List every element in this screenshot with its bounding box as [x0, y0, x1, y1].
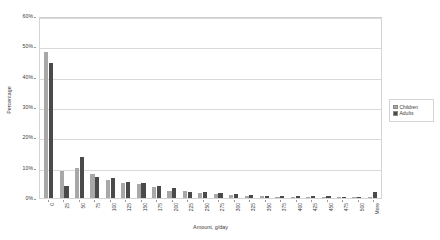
legend-swatch-icon	[393, 105, 398, 110]
bar-children	[167, 191, 171, 198]
x-axis-tick-mark	[203, 200, 204, 202]
bar-adults	[311, 196, 315, 198]
y-axis-tick-label: 50%	[11, 45, 33, 50]
x-axis-tick-mark	[218, 200, 219, 202]
x-axis-tick-label: 225	[189, 203, 194, 211]
bar-children	[229, 195, 233, 198]
x-axis-tick-label: 200	[174, 203, 179, 211]
x-axis-tick-label: 325	[251, 203, 256, 211]
legend-entry-adults[interactable]: Adults	[393, 111, 431, 116]
x-axis-tick: 425	[304, 200, 320, 222]
y-axis-tick-label: 0%	[11, 196, 33, 201]
bar-group	[334, 18, 349, 198]
y-axis-tick-mark	[34, 17, 36, 18]
bar-children	[322, 197, 326, 198]
x-axis-tick-label: 25	[65, 203, 70, 209]
x-axis-tick-mark	[125, 200, 126, 202]
bar-adults	[64, 186, 68, 198]
y-axis-tick-label: 10%	[11, 166, 33, 171]
x-axis-tick: 150	[133, 200, 149, 222]
bar-adults	[49, 63, 53, 198]
bar-adults	[326, 196, 330, 198]
bar-children	[214, 194, 218, 198]
bar-group	[272, 18, 287, 198]
x-axis-tick-mark	[327, 200, 328, 202]
plot-area	[39, 17, 382, 199]
bar-group	[56, 18, 71, 198]
x-axis-tick-mark	[296, 200, 297, 202]
legend-label: Children	[400, 105, 419, 110]
x-axis-tick-mark	[187, 200, 188, 202]
bar-children	[291, 197, 295, 198]
x-axis-tick: 25	[56, 200, 72, 222]
x-axis-tick-mark	[358, 200, 359, 202]
bar-group	[288, 18, 303, 198]
bar-group	[226, 18, 241, 198]
y-axis-tick-mark	[34, 108, 36, 109]
x-axis-title: Amount, g/day	[39, 224, 382, 230]
bar-children	[245, 196, 249, 198]
x-axis-tick-label: 375	[282, 203, 287, 211]
y-axis-tick-mark	[34, 47, 36, 48]
bar-group	[103, 18, 118, 198]
legend-entry-children[interactable]: Children	[393, 105, 431, 110]
bar-adults	[342, 197, 346, 198]
x-axis-tick: 175	[149, 200, 165, 222]
bar-adults	[234, 194, 238, 198]
bar-adults	[188, 192, 192, 198]
bar-group	[257, 18, 272, 198]
y-axis-tick-mark	[34, 138, 36, 139]
x-axis-tick: 275	[211, 200, 227, 222]
x-axis-tick: 200	[164, 200, 180, 222]
x-axis-tick-mark	[172, 200, 173, 202]
bar-group	[87, 18, 102, 198]
x-axis-tick-mark	[311, 200, 312, 202]
bar-adults	[111, 178, 115, 198]
x-axis-tick: More	[366, 200, 382, 222]
bar-children	[306, 197, 310, 198]
x-axis-tick-mark	[48, 200, 49, 202]
legend-swatch-icon	[393, 111, 398, 116]
legend-label: Adults	[400, 111, 414, 116]
bar-children	[106, 180, 110, 198]
x-axis-tick-mark	[110, 200, 111, 202]
y-axis-tick-mark	[34, 78, 36, 79]
x-axis-tick-label: 350	[267, 203, 272, 211]
x-axis-tick-mark	[234, 200, 235, 202]
bar-adults	[141, 183, 145, 198]
x-axis-tick: 375	[273, 200, 289, 222]
x-axis-tick-label: 450	[329, 203, 334, 211]
x-axis-tick-label: 175	[158, 203, 163, 211]
bar-children	[198, 193, 202, 198]
bar-children	[352, 197, 356, 198]
bar-group	[318, 18, 333, 198]
chart-legend: ChildrenAdults	[389, 99, 434, 122]
bar-group	[133, 18, 148, 198]
y-axis-tick-label: 30%	[11, 105, 33, 110]
x-axis-tick-label: 100	[112, 203, 117, 211]
bar-group	[164, 18, 179, 198]
y-axis-tick-label: 40%	[11, 75, 33, 80]
x-axis-tick: 225	[180, 200, 196, 222]
bar-group	[41, 18, 56, 198]
x-axis-tick-label: 275	[220, 203, 225, 211]
x-axis-tick-label: 0	[50, 203, 55, 206]
x-axis-tick-mark	[265, 200, 266, 202]
x-axis-tick-mark	[342, 200, 343, 202]
bar-adults	[249, 195, 253, 198]
bar-adults	[95, 177, 99, 198]
bar-group	[195, 18, 210, 198]
bar-children	[60, 171, 64, 198]
x-axis-tick-label: 150	[143, 203, 148, 211]
bar-adults	[157, 186, 161, 198]
y-axis-tick-label: 20%	[11, 136, 33, 141]
x-axis-tick-label: 125	[127, 203, 132, 211]
bar-adults	[203, 192, 207, 198]
x-axis-tick-mark	[249, 200, 250, 202]
x-axis-tick: 125	[118, 200, 134, 222]
bar-adults	[172, 188, 176, 198]
y-axis-tick-labels: 0%10%20%30%40%50%60%	[14, 17, 36, 199]
bar-adults	[80, 157, 84, 198]
x-axis-tick: 300	[226, 200, 242, 222]
bar-group	[210, 18, 225, 198]
